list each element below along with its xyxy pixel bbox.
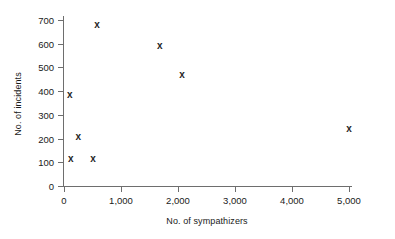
x-tick-label: 5,000 bbox=[337, 195, 361, 206]
y-tick-mark bbox=[58, 162, 63, 163]
y-tick-mark bbox=[58, 139, 63, 140]
y-tick-mark bbox=[58, 115, 63, 116]
plot-area: xxxxxxxx bbox=[64, 16, 349, 186]
data-point-marker: x bbox=[179, 70, 185, 80]
y-tick-label: 300 bbox=[28, 109, 54, 120]
y-tick-label: 600 bbox=[28, 38, 54, 49]
x-tick-mark bbox=[121, 187, 122, 192]
x-tick-label: 2,000 bbox=[166, 195, 190, 206]
y-tick-label: 500 bbox=[28, 62, 54, 73]
x-tick-mark bbox=[235, 187, 236, 192]
x-tick-mark bbox=[64, 187, 65, 192]
y-tick-mark bbox=[58, 44, 63, 45]
x-tick-mark bbox=[349, 187, 350, 192]
data-point-marker: x bbox=[346, 124, 352, 134]
x-axis-title: No. of sympathizers bbox=[166, 216, 247, 226]
y-tick-mark bbox=[58, 91, 63, 92]
x-tick-label: 1,000 bbox=[109, 195, 133, 206]
x-tick-label: 3,000 bbox=[223, 195, 247, 206]
data-point-marker: x bbox=[68, 154, 74, 164]
y-tick-mark bbox=[58, 186, 63, 187]
x-axis-line bbox=[64, 186, 352, 187]
data-point-marker: x bbox=[157, 41, 163, 51]
y-tick-label: 100 bbox=[28, 157, 54, 168]
x-tick-mark bbox=[292, 187, 293, 192]
data-point-marker: x bbox=[90, 154, 96, 164]
x-tick-mark bbox=[178, 187, 179, 192]
y-tick-label: 700 bbox=[28, 15, 54, 26]
data-point-marker: x bbox=[67, 90, 73, 100]
scatter-chart: No. of incidents 0100200300400500600700 … bbox=[0, 0, 395, 239]
y-tick-mark bbox=[58, 67, 63, 68]
y-tick-label: 0 bbox=[28, 181, 54, 192]
data-point-marker: x bbox=[75, 132, 81, 142]
data-point-marker: x bbox=[94, 20, 100, 30]
y-axis-title: No. of incidents bbox=[13, 44, 23, 164]
x-tick-label: 4,000 bbox=[280, 195, 304, 206]
x-tick-label: 0 bbox=[61, 195, 66, 206]
y-tick-label: 400 bbox=[28, 86, 54, 97]
y-tick-mark bbox=[58, 20, 63, 21]
y-tick-label: 200 bbox=[28, 133, 54, 144]
